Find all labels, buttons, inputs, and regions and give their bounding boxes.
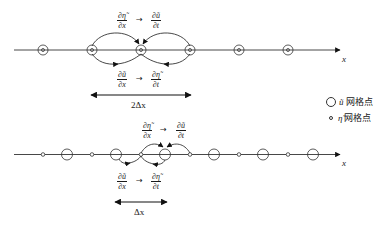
legend-item-eta-grid: η̃ 网格点	[329, 111, 371, 124]
top-axis-label: x	[342, 54, 346, 64]
fraction-denominator: ∂x	[117, 80, 127, 89]
bottom-spacing-label: Δx	[134, 207, 144, 217]
fraction-numerator: ∂η̃	[117, 11, 127, 21]
bottom-lower-rhs-fraction: ∂η̃ ∂t	[151, 172, 161, 191]
bottom-panel	[14, 144, 340, 202]
top-panel	[14, 33, 340, 95]
fraction-numerator: ∂ũ	[117, 70, 127, 80]
top-upper-lhs-fraction: ∂η̃ ∂x	[117, 11, 127, 30]
top-lower-lhs-fraction: ∂ũ ∂x	[117, 70, 127, 89]
fraction-numerator: ∂ũ	[117, 172, 127, 182]
fraction-denominator: ∂t	[152, 21, 160, 30]
fraction-numerator: ∂η̃	[142, 121, 152, 131]
bottom-upper-implies-arrow: →	[160, 125, 167, 134]
bottom-lower-implies-arrow: →	[136, 176, 143, 185]
fraction-numerator: ∂η̃	[151, 70, 161, 80]
legend-variable: ũ	[339, 97, 344, 107]
fraction-denominator: ∂x	[117, 182, 127, 191]
bottom-lower-lhs-fraction: ∂ũ ∂x	[117, 172, 127, 191]
legend-label: 网格点	[344, 111, 371, 124]
bottom-axis-label: x	[342, 158, 346, 168]
bottom-upper-lhs-fraction: ∂η̃ ∂x	[142, 121, 152, 140]
top-upper-rhs-fraction: ∂ũ ∂t	[151, 11, 161, 30]
fraction-numerator: ∂η̃	[151, 172, 161, 182]
fraction-denominator: ∂x	[117, 21, 127, 30]
legend-label: 网格点	[346, 95, 373, 108]
legend-item-u-grid: ũ 网格点	[326, 95, 373, 108]
fraction-denominator: ∂t	[152, 80, 160, 89]
fraction-denominator: ∂x	[142, 131, 152, 140]
top-lower-implies-arrow: →	[136, 74, 143, 83]
top-lower-rhs-fraction: ∂η̃ ∂t	[151, 70, 161, 89]
small-circle-icon	[329, 116, 333, 120]
fraction-denominator: ∂t	[152, 182, 160, 191]
large-circle-icon	[326, 97, 336, 107]
legend-variable: η̃	[338, 113, 342, 123]
top-upper-implies-arrow: →	[136, 15, 143, 24]
fraction-numerator: ∂ũ	[151, 11, 161, 21]
bottom-upper-rhs-fraction: ∂ũ ∂t	[176, 121, 186, 140]
fraction-denominator: ∂t	[177, 131, 185, 140]
top-spacing-label: 2Δx	[131, 100, 146, 110]
fraction-numerator: ∂ũ	[176, 121, 186, 131]
